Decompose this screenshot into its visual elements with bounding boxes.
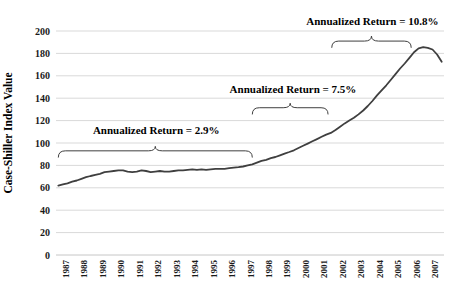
- x-tick-label: 2003: [356, 260, 366, 279]
- y-tick-label: 180: [35, 48, 50, 59]
- x-tick-label: 2007: [430, 260, 440, 279]
- index-value-line: [58, 47, 441, 185]
- annotation-brace: [252, 103, 328, 114]
- annotation-brace: [58, 146, 252, 157]
- x-tick-label: 1998: [264, 260, 274, 279]
- y-tick-label: 80: [40, 160, 50, 171]
- x-tick-label: 1992: [153, 260, 163, 279]
- line-chart-svg: 0204060801001201401601802001987198819891…: [0, 0, 451, 299]
- y-tick-label: 140: [35, 93, 50, 104]
- y-tick-label: 20: [40, 227, 50, 238]
- annotation-label: Annualized Return = 10.8%: [306, 15, 438, 27]
- x-tick-label: 1996: [227, 260, 237, 279]
- y-tick-label: 160: [35, 70, 50, 81]
- annotation-label: Annualized Return = 2.9%: [93, 124, 220, 136]
- annotation-brace: [332, 36, 411, 48]
- y-tick-label: 200: [35, 26, 50, 37]
- x-tick-label: 1993: [172, 260, 182, 279]
- y-tick-label: 0: [45, 250, 50, 261]
- x-tick-label: 1999: [282, 260, 292, 279]
- y-axis-title: Case-Shiller Index Value: [2, 72, 14, 193]
- x-tick-label: 2006: [412, 260, 422, 279]
- x-tick-label: 1991: [135, 260, 145, 279]
- y-tick-label: 120: [35, 115, 50, 126]
- x-tick-label: 2000: [301, 260, 311, 279]
- x-tick-label: 2005: [393, 260, 403, 279]
- x-tick-label: 2004: [375, 260, 385, 279]
- x-tick-label: 1995: [209, 260, 219, 279]
- y-tick-label: 40: [40, 205, 50, 216]
- x-tick-label: 2001: [319, 260, 329, 279]
- annotation-label: Annualized Return = 7.5%: [230, 83, 357, 95]
- x-tick-label: 1988: [79, 260, 89, 279]
- x-tick-label: 1989: [98, 260, 108, 279]
- x-tick-label: 2002: [338, 260, 348, 279]
- case-shiller-line-chart: 0204060801001201401601802001987198819891…: [0, 0, 451, 299]
- x-tick-label: 1994: [190, 260, 200, 279]
- y-tick-label: 60: [40, 182, 50, 193]
- x-tick-label: 1987: [61, 260, 71, 279]
- y-tick-label: 100: [35, 138, 50, 149]
- x-tick-label: 1990: [116, 260, 126, 279]
- x-tick-label: 1997: [246, 260, 256, 279]
